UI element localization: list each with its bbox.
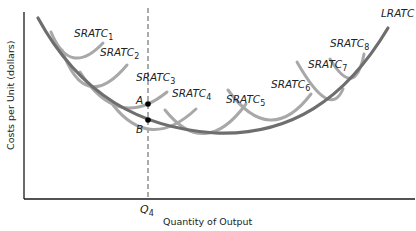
point-b-dot [145, 117, 151, 123]
q4-tick-label: Q4 [140, 203, 154, 218]
x-axis-title: Quantity of Output [163, 216, 253, 227]
point-a-label: A [135, 94, 143, 106]
sratc-7-label: SRATC7 [308, 58, 347, 73]
lratc-label: LRATC [381, 7, 415, 19]
point-b-label: B [136, 123, 143, 135]
sratc-8-label: SRATC8 [330, 37, 369, 52]
sratc-3-label: SRATC3 [136, 71, 175, 86]
sratc-1-label: SRATC1 [74, 27, 113, 42]
point-a-dot [145, 101, 151, 107]
sratc-6-label: SRATC6 [271, 78, 310, 93]
sratc-4-label: SRATC4 [172, 87, 211, 102]
y-axis-title: Costs per Unit (dollars) [5, 41, 16, 150]
chart: LRATC SRATC1 SRATC2 SRATC3 SRATC4 SRATC5… [0, 0, 416, 231]
sratc-curves [51, 32, 364, 134]
sratc-2-label: SRATC2 [100, 46, 139, 61]
